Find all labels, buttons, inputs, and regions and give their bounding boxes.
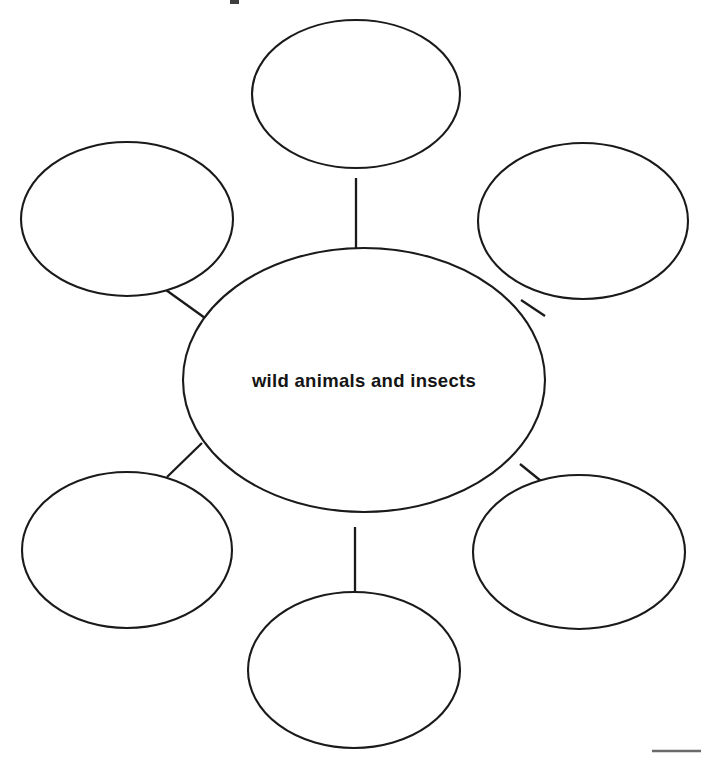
bubble-ellipse-lower-left[interactable] [22, 472, 232, 628]
bubble-ellipse-upper-left[interactable] [21, 142, 233, 296]
worksheet-canvas: wild animals and insects [0, 0, 703, 762]
bubble-lower-right[interactable] [473, 475, 685, 629]
center-label: wild animals and insects [251, 370, 476, 391]
bubble-top[interactable] [252, 20, 460, 168]
bubble-upper-right[interactable] [478, 143, 688, 299]
bubble-upper-left[interactable] [21, 142, 233, 296]
center-bubble[interactable]: wild animals and insects [183, 248, 545, 512]
bubble-ellipse-top[interactable] [252, 20, 460, 168]
connector-center-to-lower-right [520, 464, 541, 481]
bubble-ellipse-upper-right[interactable] [478, 143, 688, 299]
connector-center-to-upper-left [166, 290, 205, 318]
connector-center-to-upper-right [521, 300, 545, 316]
connector-center-to-lower-left [167, 443, 202, 477]
bubble-ellipse-lower-right[interactable] [473, 475, 685, 629]
bubble-ellipse-bottom[interactable] [248, 592, 460, 748]
word-web-diagram: wild animals and insects [0, 0, 703, 762]
bubble-lower-left[interactable] [22, 472, 232, 628]
clipped-text-fragment [230, 0, 239, 4]
bubble-bottom[interactable] [248, 592, 460, 748]
